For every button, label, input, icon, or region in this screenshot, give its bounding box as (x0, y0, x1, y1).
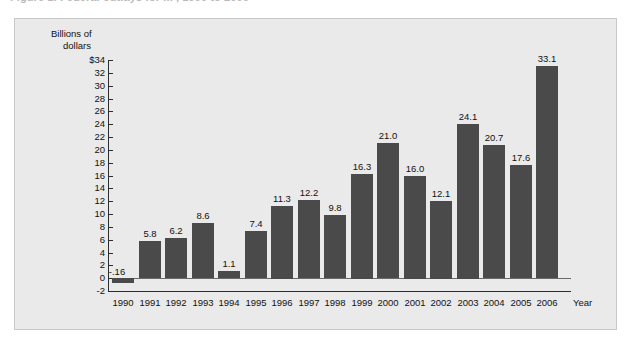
y-axis-tick-label-text: 22 (59, 131, 105, 142)
y-axis-tick-label-text: 28 (59, 93, 105, 104)
y-axis-tick (108, 99, 113, 100)
figure-caption-text: Figure 1. Federal outlays for ... , 1990… (10, 0, 249, 3)
bar-value-label-1998: 9.8 (315, 202, 355, 213)
x-axis-spine (108, 291, 571, 292)
y-axis-tick-label-text: 18 (59, 157, 105, 168)
y-axis-tick (108, 214, 113, 215)
y-axis-tick-label: 22 (55, 131, 105, 142)
bar-1992 (165, 238, 187, 278)
figure-caption-strip: Figure 1. Federal outlays for ... , 1990… (0, 0, 631, 9)
bar-2003 (457, 124, 479, 279)
y-axis-tick (108, 201, 113, 202)
bar-2005 (510, 165, 532, 278)
y-axis-tick-label: 26 (55, 105, 105, 116)
bar-value-label-1997: 12.2 (289, 187, 329, 198)
y-axis-tick-label: 30 (55, 80, 105, 91)
y-axis-tick (108, 137, 113, 138)
y-axis-tick-label: 32 (55, 67, 105, 78)
y-axis-tick-label: 16 (55, 170, 105, 181)
y-axis-tick (108, 176, 113, 177)
y-axis-tick-label-text: 30 (59, 80, 105, 91)
y-axis-tick (108, 188, 113, 189)
y-axis-tick-label-text: 8 (59, 221, 105, 232)
y-axis-tick-label: 12 (55, 195, 105, 206)
bar-value-label-2005: 17.6 (501, 152, 541, 163)
figure-root: Figure 1. Federal outlays for ... , 1990… (0, 0, 631, 345)
bar-value-label-2004: 20.7 (474, 132, 514, 143)
y-axis-tick-label: 20 (55, 144, 105, 155)
y-axis-tick-label-text: 32 (59, 67, 105, 78)
bar-value-label-1993: 8.6 (183, 210, 223, 221)
y-axis-tick-label: 28 (55, 93, 105, 104)
y-axis-tick (108, 60, 113, 61)
x-axis-label-2006: 2006 (530, 297, 564, 308)
y-axis-tick-label: -2 (55, 285, 105, 296)
y-axis-tick-label-text: 24 (59, 118, 105, 129)
bar-2006 (536, 66, 558, 278)
bar-value-label-1992: 6.2 (156, 225, 196, 236)
y-axis-tick (108, 124, 113, 125)
bar-value-label-2003: 24.1 (448, 111, 488, 122)
bar-value-label-2002: 12.1 (421, 188, 461, 199)
y-axis-tick-label: 8 (55, 221, 105, 232)
bar-value-label-1999: 16.3 (342, 161, 382, 172)
bar-1993 (192, 223, 214, 278)
y-axis-tick-label: 6 (55, 234, 105, 245)
y-axis-tick-label-text: 10 (59, 208, 105, 219)
y-axis-tick-label-text: 16 (59, 170, 105, 181)
y-axis-tick (108, 111, 113, 112)
bar-1999 (351, 174, 373, 279)
x-axis-title: Year (573, 297, 592, 308)
y-axis-tick (108, 163, 113, 164)
y-axis-tick-label-text: 26 (59, 105, 105, 116)
y-axis-tick (108, 150, 113, 151)
bar-value-label-1994: 1.1 (209, 258, 249, 269)
y-axis-tick-label: 18 (55, 157, 105, 168)
bar-value-label-2000: 21.0 (368, 130, 408, 141)
bar-1995 (245, 231, 267, 278)
y-axis-tick (108, 240, 113, 241)
bar-1996 (271, 206, 293, 279)
plot-area: $3432302826242220181614121086420-2 -.165… (15, 19, 618, 331)
y-axis-tick (108, 227, 113, 228)
y-axis-tick-label-text: 6 (59, 234, 105, 245)
y-axis-tick-label: 10 (55, 208, 105, 219)
y-axis-tick-label-text: $34 (59, 54, 105, 65)
bar-2002 (430, 201, 452, 279)
bar-1991 (139, 241, 161, 278)
y-axis-tick-label-text: 4 (59, 247, 105, 258)
y-axis-tick (108, 253, 113, 254)
bar-1990 (112, 278, 134, 283)
y-axis-tick-label-text: 12 (59, 195, 105, 206)
bar-1994 (218, 271, 240, 278)
y-axis-tick (108, 291, 113, 292)
y-axis-tick-label-text: 14 (59, 182, 105, 193)
bar-value-label-1990: -.16 (97, 266, 137, 277)
y-axis-tick-label: 24 (55, 118, 105, 129)
chart-panel: Billions of dollars $3432302826242220181… (14, 18, 617, 330)
bar-value-label-2001: 16.0 (395, 163, 435, 174)
y-axis-tick-label: $34 (55, 54, 105, 65)
bar-value-label-2006: 33.1 (527, 53, 567, 64)
bar-2004 (483, 145, 505, 278)
y-axis-tick (108, 86, 113, 87)
y-axis-tick-label: 4 (55, 247, 105, 258)
y-axis-tick (108, 73, 113, 74)
bar-1998 (324, 215, 346, 278)
y-axis-tick-label: 14 (55, 182, 105, 193)
zero-reference-line (108, 278, 571, 279)
bar-value-label-1995: 7.4 (236, 218, 276, 229)
y-axis-tick-label-text: -2 (59, 285, 105, 296)
y-axis-tick-label-text: 20 (59, 144, 105, 155)
